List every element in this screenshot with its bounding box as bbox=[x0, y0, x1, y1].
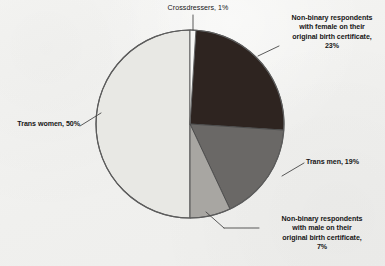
pie-slice-nonbinary-female[interactable] bbox=[190, 30, 284, 130]
chart-page: Crossdressers, 1% Non-binary respondents… bbox=[0, 0, 385, 266]
pie-slice-trans-women[interactable] bbox=[96, 30, 190, 218]
pie-slices bbox=[96, 30, 284, 218]
leader-line-trans-men bbox=[282, 163, 304, 176]
pie-label-nonbinary-female: Non-binary respondents with female on th… bbox=[281, 14, 383, 52]
pie-label-trans-men: Trans men, 19% bbox=[306, 158, 384, 167]
pie-label-trans-women: Trans women, 50% bbox=[2, 120, 80, 129]
pie-label-nonbinary-male: Non-binary respondents with male on thei… bbox=[262, 215, 382, 253]
leader-line-nonbinary-female bbox=[258, 46, 279, 56]
pie-label-crossdressers: Crossdressers, 1% bbox=[142, 4, 254, 13]
